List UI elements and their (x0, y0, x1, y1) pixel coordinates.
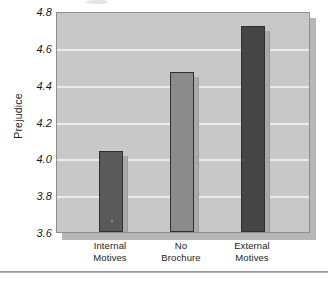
y-axis-tick-label: 4.4 (4, 80, 52, 92)
x-axis-tick-label-line: Brochure (141, 252, 221, 264)
bar-external-motives (241, 26, 265, 232)
x-axis-tick-label-line: Internal (70, 240, 150, 252)
chart-figure: Prejudice 4.84.64.44.24.03.83.6 Internal… (0, 0, 328, 284)
bar-no-brochure (170, 72, 194, 232)
y-axis-tick-label: 3.8 (4, 190, 52, 202)
y-axis-tick-label: 4.8 (4, 6, 52, 18)
y-axis-tick-label: 4.6 (4, 43, 52, 55)
y-axis-tick-label: 3.6 (4, 227, 52, 239)
plot-area (56, 12, 310, 233)
x-axis-tick-label-line: Motives (70, 252, 150, 264)
y-axis-ticks: 4.84.64.44.24.03.83.6 (0, 0, 52, 284)
x-axis-tick-label-line: External (212, 240, 292, 252)
gridline (57, 49, 309, 51)
scan-artifact (86, 0, 108, 4)
y-axis-tick-label: 4.0 (4, 153, 52, 165)
x-axis-tick-label-line: Motives (212, 252, 292, 264)
x-axis-tick-label: InternalMotives (70, 240, 150, 263)
x-axis-tick-label-line: No (141, 240, 221, 252)
x-axis-tick-label: NoBrochure (141, 240, 221, 263)
bottom-rule (0, 271, 328, 273)
y-axis-tick-label: 4.2 (4, 117, 52, 129)
x-axis-tick-label: ExternalMotives (212, 240, 292, 263)
